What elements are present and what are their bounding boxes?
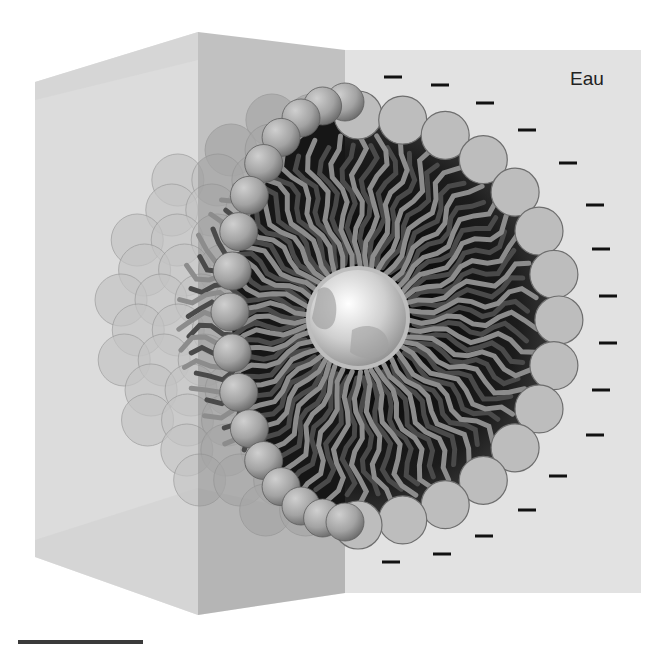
head-group — [530, 250, 578, 298]
front-head-bead — [213, 334, 251, 372]
head-group — [535, 296, 583, 344]
negative-charge-icon — [433, 553, 451, 556]
front-head-bead — [220, 373, 258, 411]
head-group — [530, 342, 578, 390]
front-head-bead — [213, 252, 251, 290]
negative-charge-icon — [592, 389, 610, 392]
negative-charge-icon — [586, 204, 604, 207]
head-group — [421, 481, 469, 529]
negative-charge-icon — [592, 248, 610, 251]
micelle-diagram: Eau — [0, 0, 670, 645]
front-head-bead — [230, 176, 268, 214]
negative-charge-icon — [518, 129, 536, 132]
negative-charge-icon — [431, 84, 449, 87]
negative-charge-icon — [382, 561, 400, 564]
negative-charge-icon — [586, 434, 604, 437]
negative-charge-icon — [476, 102, 494, 105]
head-group — [379, 496, 427, 544]
head-group — [515, 207, 563, 255]
scale-bar — [18, 640, 143, 644]
water-label: Eau — [570, 68, 604, 89]
front-head-bead — [211, 293, 249, 331]
negative-charge-icon — [599, 295, 617, 298]
negative-charge-icon — [475, 535, 493, 538]
negative-charge-icon — [549, 475, 567, 478]
negative-charge-icon — [559, 162, 577, 165]
negative-charge-icon — [518, 509, 536, 512]
micelle-core — [306, 266, 410, 370]
negative-charge-icon — [599, 342, 617, 345]
front-head-bead — [220, 213, 258, 251]
front-head-bead — [326, 503, 364, 541]
head-group — [379, 96, 427, 144]
negative-charge-icon — [384, 76, 402, 79]
